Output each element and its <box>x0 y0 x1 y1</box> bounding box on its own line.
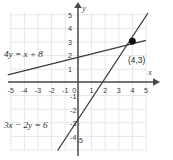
intersection-point-dot <box>129 38 136 45</box>
intersection-point-label: (4,3) <box>128 55 145 65</box>
equation-label-line-1: 4y = x + 8 <box>4 49 43 59</box>
x-tick-label: -1 <box>62 86 68 95</box>
x-tick-label: -3 <box>35 86 41 95</box>
x-tick-label: -2 <box>48 86 54 95</box>
y-axis-arrow-icon <box>74 2 82 8</box>
x-tick-label: -5 <box>8 86 14 95</box>
y-tick-label: -5 <box>77 136 83 145</box>
x-tick-label: 2 <box>103 86 107 95</box>
y-tick-label: 4 <box>68 24 72 33</box>
y-tick-label: -3 <box>70 119 76 128</box>
x-tick-label: -4 <box>21 86 27 95</box>
x-tick-label: 5 <box>144 86 148 95</box>
coordinate-graph-figure: -5 -4 -3 -2 -1 0 1 2 3 4 5 5 4 3 2 1 -1 … <box>0 0 173 160</box>
axes <box>8 2 160 156</box>
y-axis-tick-labels: 5 4 3 2 1 -1 -2 -3 -4 -5 <box>68 11 83 145</box>
y-tick-label: -2 <box>70 106 76 115</box>
y-axis-label: y <box>81 4 86 13</box>
y-tick-label: 3 <box>68 38 72 47</box>
graph-canvas: -5 -4 -3 -2 -1 0 1 2 3 4 5 5 4 3 2 1 -1 … <box>0 0 173 160</box>
y-tick-label: 5 <box>68 11 72 20</box>
y-tick-label: 1 <box>68 65 72 74</box>
x-tick-label: 1 <box>90 86 94 95</box>
x-axis-label: x <box>147 68 152 77</box>
x-tick-label: 4 <box>130 86 134 95</box>
y-tick-label: -1 <box>70 92 76 101</box>
x-axis-arrow-icon <box>153 78 160 86</box>
equation-label-line-2: 3x − 2y = 6 <box>3 120 48 130</box>
y-tick-label: 2 <box>68 51 72 60</box>
x-tick-label: 3 <box>117 86 121 95</box>
